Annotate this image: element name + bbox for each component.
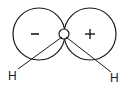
- plus-sign: [85, 29, 95, 39]
- bond-right: [66, 37, 111, 72]
- hydrogen-left-label: H: [8, 69, 17, 83]
- hydrogen-right-label: H: [110, 71, 119, 85]
- orbital-diagram: H H: [0, 0, 128, 86]
- bond-left: [18, 37, 62, 69]
